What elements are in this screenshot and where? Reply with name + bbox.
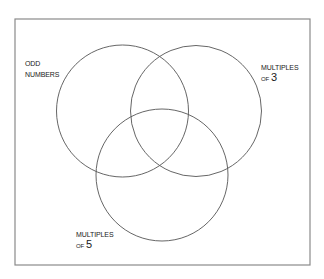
mult5-label-line2: OF 5 (76, 239, 113, 252)
mult5-label-prefix: OF (76, 243, 84, 249)
venn-diagram (0, 0, 324, 279)
odd-label-line2: NUMBERS (25, 69, 59, 80)
odd-numbers-circle (57, 45, 189, 177)
mult5-label-number: 5 (86, 238, 92, 250)
diagram-frame (15, 19, 310, 265)
mult3-label-number: 3 (271, 71, 277, 83)
multiples-of-3-circle (131, 46, 262, 177)
multiples-of-3-label: MULTIPLES OF 3 (261, 62, 298, 85)
mult3-label-line2: OF 3 (261, 72, 298, 85)
odd-numbers-label: ODD NUMBERS (25, 58, 59, 80)
odd-label-line1: ODD (25, 58, 59, 69)
multiples-of-5-label: MULTIPLES OF 5 (76, 229, 113, 252)
mult3-label-prefix: OF (261, 76, 269, 82)
